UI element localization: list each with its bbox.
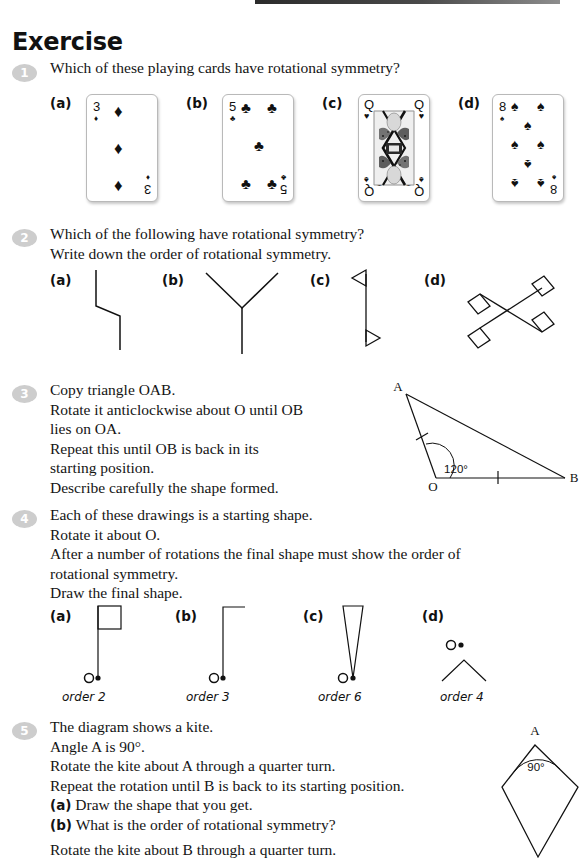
question-5-subpart-a: (a) Draw the shape that you get.	[50, 795, 253, 816]
subpart-label-5b: (b)	[50, 817, 72, 833]
card-pip: ♣	[254, 139, 264, 154]
card-rank-top: 5	[229, 100, 236, 113]
vertex-label-B: B	[570, 470, 579, 485]
question-3-text: Copy triangle OAB. Rotate it anticlockwi…	[50, 380, 303, 497]
card-rank-bottom: 5	[280, 183, 287, 196]
question-number-3: 3	[12, 385, 37, 403]
caption-4b: order 3	[186, 690, 230, 704]
pivot-dot	[95, 675, 100, 680]
angle-label-120: 120°	[444, 463, 468, 475]
question-5-trailing-line: Rotate the kite about B through a quarte…	[50, 840, 336, 860]
playing-card-8-of-spades: 8 ♠ 8 ♠ ♠ ♠ ♠ ♠ ♠ ♠ ♠ ♠	[492, 94, 564, 202]
shape-2d-cross-with-diamonds	[458, 270, 568, 354]
shape-4d-chevron	[440, 636, 510, 686]
card-suit-top-icon: ♦	[94, 115, 98, 123]
subpart-text-5b: What is the order of rotational symmetry…	[76, 816, 336, 833]
card-pip: ♦	[114, 177, 123, 194]
part-label-1c: (c)	[322, 95, 342, 111]
card-suit-bottom-icon: ♠	[552, 173, 556, 181]
part-label-1b: (b)	[186, 95, 208, 111]
card-rank-top: 3	[93, 100, 100, 113]
caption-4d: order 4	[440, 690, 484, 704]
card-pip: ♠	[537, 100, 544, 114]
centre-marker-O	[447, 641, 456, 650]
playing-card-3-of-diamonds: 3 ♦ 3 ♦ ♦ ♦ ♦	[86, 94, 158, 202]
question-3-line-5: starting position.	[50, 458, 303, 478]
question-2-line-2: Write down the order of rotational symme…	[50, 244, 364, 264]
part-label-2b: (b)	[162, 272, 184, 288]
card-pip: ♠	[524, 157, 531, 171]
shape-4c-narrow-triangle	[333, 604, 403, 684]
queen-court-figure	[359, 95, 429, 201]
card-suit-bottom-icon: ♣	[281, 173, 286, 181]
part-label-4d: (d)	[422, 608, 444, 624]
shape-2c-double-arrowhead-line	[346, 268, 391, 352]
question-5-text: The diagram shows a kite. Angle A is 90°…	[50, 717, 404, 795]
card-pip: ♠	[511, 100, 518, 114]
question-4-text: Each of these drawings is a starting sha…	[50, 505, 461, 603]
question-5-line-3: Rotate the kite about A through a quarte…	[50, 756, 404, 776]
card-pip: ♠	[537, 176, 544, 190]
page-title: Exercise	[12, 28, 123, 56]
playing-card-5-of-clubs: 5 ♣ 5 ♣ ♣ ♣ ♣ ♣ ♣	[222, 94, 294, 202]
question-1-line-1: Which of these playing cards have rotati…	[50, 58, 400, 78]
shape-2b-y-shape	[198, 268, 288, 352]
question-5-trailing-text: Rotate the kite about B through a quarte…	[50, 840, 336, 860]
question-3-line-6: Describe carefully the shape formed.	[50, 478, 303, 498]
part-label-4b: (b)	[175, 608, 197, 624]
subpart-label-5a: (a)	[50, 797, 71, 813]
question-4-line-1: Each of these drawings is a starting sha…	[50, 505, 461, 525]
kite-vertex-label-A: A	[530, 723, 540, 738]
pivot-dot	[350, 675, 355, 680]
shape-4b-flag-bent	[205, 604, 275, 684]
question-5-line-4: Repeat the rotation until B is back to i…	[50, 776, 404, 796]
card-pip: ♦	[114, 140, 123, 157]
vertex-label-O: O	[428, 479, 437, 494]
triangle-oab-diagram: A O B 120°	[380, 382, 580, 492]
card-rank-bottom: 8	[550, 183, 557, 196]
caption-4a: order 2	[62, 690, 106, 704]
card-pip: ♠	[524, 119, 531, 133]
pivot-dot	[220, 675, 225, 680]
question-1-text: Which of these playing cards have rotati…	[50, 58, 400, 78]
kite-diagram: A 90°	[490, 705, 586, 861]
card-rank-bottom: 3	[144, 183, 151, 196]
card-pip: ♣	[267, 101, 277, 116]
textbook-page: Exercise 1 Which of these playing cards …	[0, 0, 586, 861]
card-suit-top-icon: ♣	[230, 115, 235, 123]
question-3-line-2: Rotate it anticlockwise about O until OB	[50, 400, 303, 420]
question-5-line-2: Angle A is 90°.	[50, 737, 404, 757]
question-number-2: 2	[12, 229, 37, 247]
question-5-line-1: The diagram shows a kite.	[50, 717, 404, 737]
centre-marker-O	[85, 674, 94, 683]
part-label-2a: (a)	[50, 272, 71, 288]
playing-card-queen: Q ♥ Q ♥ Q ♠ Q ♠ ♥ ♥ ♠ ♠	[358, 94, 430, 202]
centre-marker-O	[339, 674, 348, 683]
card-rank-top: 8	[499, 100, 506, 113]
question-4-line-3: After a number of rotations the final sh…	[50, 544, 461, 564]
question-4-line-4: rotational symmetry.	[50, 564, 461, 584]
question-2-text: Which of the following have rotational s…	[50, 224, 364, 263]
part-label-4a: (a)	[50, 608, 71, 624]
question-number-5: 5	[12, 722, 37, 740]
vertex-label-A: A	[393, 379, 403, 394]
question-4-line-2: Rotate it about O.	[50, 525, 461, 545]
card-suit-bottom-icon: ♦	[146, 173, 150, 181]
card-pip: ♠	[511, 138, 518, 152]
question-3-line-1: Copy triangle OAB.	[50, 380, 303, 400]
card-pip: ♣	[241, 101, 251, 116]
shape-2a-zigzag-line	[86, 268, 146, 352]
centre-marker-O	[210, 674, 219, 683]
card-pip: ♦	[114, 103, 123, 120]
card-pip: ♠	[511, 176, 518, 190]
card-pip: ♣	[241, 177, 251, 192]
question-5-subpart-b: (b) What is the order of rotational symm…	[50, 815, 336, 836]
part-label-4c: (c)	[303, 608, 323, 624]
question-2-line-1: Which of the following have rotational s…	[50, 224, 364, 244]
card-pip: ♣	[267, 177, 277, 192]
card-pip: ♠	[537, 138, 544, 152]
part-label-1a: (a)	[50, 95, 71, 111]
subpart-text-5a: Draw the shape that you get.	[75, 796, 252, 813]
question-3-line-4: Repeat this until OB is back in its	[50, 439, 303, 459]
page-header-rule	[255, 0, 560, 4]
